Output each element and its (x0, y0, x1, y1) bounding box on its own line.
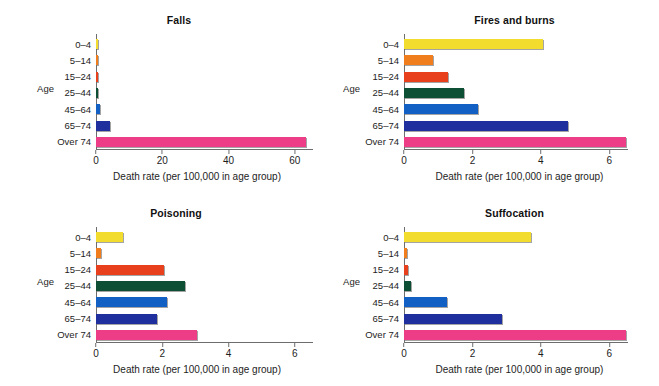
category-label: 45–64 (373, 297, 399, 308)
bar (404, 137, 626, 147)
category-label: 15–24 (65, 71, 91, 82)
category-label: 15–24 (65, 264, 91, 275)
bar-row: 0–4 (96, 39, 311, 50)
tick-mark (96, 343, 97, 347)
panel-falls: Falls Age 0–45–1415–2425–4445–6465–74Ove… (0, 0, 330, 193)
x-tick: 2 (470, 343, 476, 359)
tick-mark (162, 150, 163, 154)
category-label: 25–44 (65, 280, 91, 291)
tick-label: 60 (289, 155, 300, 166)
bar (404, 104, 478, 114)
bar-row: 5–14 (404, 55, 626, 66)
x-ticks-poisoning: 0246 (96, 343, 311, 365)
tick-label: 0 (401, 348, 407, 359)
x-tick: 60 (289, 150, 300, 166)
tick-mark (404, 150, 405, 154)
bar-row: 0–4 (96, 232, 311, 243)
bar (96, 72, 98, 82)
bar-row: 5–14 (96, 55, 311, 66)
panel-title-suffocation: Suffocation (370, 207, 659, 219)
bar (404, 314, 502, 324)
panel-title-fires: Fires and burns (370, 14, 659, 26)
x-tick: 6 (607, 150, 613, 166)
panel-poisoning: Poisoning Age 0–45–1415–2425–4445–6465–7… (0, 193, 330, 386)
bar-row: 25–44 (404, 87, 626, 98)
y-axis-name: Age (343, 276, 360, 287)
bar-row: 65–74 (404, 313, 626, 324)
category-label: 15–24 (373, 264, 399, 275)
tick-label: 4 (226, 348, 232, 359)
bar (404, 39, 543, 49)
category-label: 0–4 (75, 232, 91, 243)
tick-label: 0 (93, 155, 99, 166)
x-tick: 0 (401, 150, 407, 166)
category-label: 0–4 (383, 39, 399, 50)
tick-mark (96, 150, 97, 154)
tick-label: 6 (607, 155, 613, 166)
tick-mark (162, 343, 163, 347)
bar-rows-poisoning: 0–45–1415–2425–4445–6465–74Over 74 (96, 229, 311, 343)
x-ticks-falls: 0204060 (96, 150, 311, 172)
bar (96, 121, 110, 131)
tick-label: 4 (538, 348, 544, 359)
category-label: 15–24 (373, 71, 399, 82)
plot-area-suffocation: Age 0–45–1415–2425–4445–6465–74Over 74 0… (404, 229, 626, 343)
bar (96, 232, 123, 242)
plot-area-falls: Age 0–45–1415–2425–4445–6465–74Over 74 0… (96, 36, 311, 150)
bar-row: 5–14 (404, 248, 626, 259)
bar (404, 232, 531, 242)
bar-row: 15–24 (404, 264, 626, 275)
tick-mark (472, 150, 473, 154)
bar-row: Over 74 (404, 136, 626, 147)
panel-title-poisoning: Poisoning (22, 207, 330, 219)
bar (96, 104, 100, 114)
bar (96, 314, 157, 324)
bar-row: Over 74 (96, 136, 311, 147)
category-label: 65–74 (373, 120, 399, 131)
category-label: 45–64 (65, 104, 91, 115)
panel-fires-and-burns: Fires and burns Age 0–45–1415–2425–4445–… (330, 0, 659, 193)
bar-row: 65–74 (96, 120, 311, 131)
panel-title-falls: Falls (28, 14, 330, 26)
bar (96, 265, 164, 275)
bar-row: 45–64 (404, 104, 626, 115)
bar (96, 297, 167, 307)
bar-row: 45–64 (404, 297, 626, 308)
category-label: 65–74 (373, 313, 399, 324)
bar (404, 265, 408, 275)
bar (96, 248, 101, 258)
bar-row: 45–64 (96, 104, 311, 115)
category-label: 45–64 (65, 297, 91, 308)
x-tick: 6 (292, 343, 298, 359)
category-label: 65–74 (65, 313, 91, 324)
bar-row: 0–4 (404, 39, 626, 50)
tick-label: 0 (93, 348, 99, 359)
plot-area-poisoning: Age 0–45–1415–2425–4445–6465–74Over 74 0… (96, 229, 311, 343)
x-tick: 4 (538, 343, 544, 359)
bar (404, 248, 407, 258)
bar-row: 25–44 (96, 87, 311, 98)
x-axis-label-fires: Death rate (per 100,000 in age group) (435, 171, 603, 182)
figure-four-panel-bar-charts: Falls Age 0–45–1415–2425–4445–6465–74Ove… (0, 0, 659, 386)
tick-label: 6 (292, 348, 298, 359)
x-tick: 4 (538, 150, 544, 166)
bar-row: 25–44 (404, 280, 626, 291)
category-label: 25–44 (373, 280, 399, 291)
category-label: 0–4 (75, 39, 91, 50)
bar (96, 281, 185, 291)
bar-row: 65–74 (96, 313, 311, 324)
plot-area-fires: Age 0–45–1415–2425–4445–6465–74Over 74 0… (404, 36, 626, 150)
category-label: Over 74 (57, 136, 91, 147)
bar-row: 5–14 (96, 248, 311, 259)
x-axis-label-suffocation: Death rate (per 100,000 in age group) (435, 364, 603, 375)
bar-rows-falls: 0–45–1415–2425–4445–6465–74Over 74 (96, 36, 311, 150)
bar-row: 15–24 (96, 71, 311, 82)
bar (96, 330, 197, 340)
bar (404, 88, 464, 98)
tick-mark (609, 150, 610, 154)
category-label: 25–44 (65, 87, 91, 98)
x-ticks-suffocation: 0246 (404, 343, 626, 365)
category-label: 5–14 (378, 55, 399, 66)
x-axis-label-poisoning: Death rate (per 100,000 in age group) (113, 364, 281, 375)
category-label: 45–64 (373, 104, 399, 115)
